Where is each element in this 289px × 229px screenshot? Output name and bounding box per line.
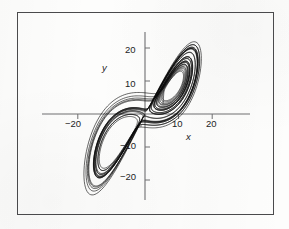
x-tick-label-10: 10 bbox=[172, 118, 182, 129]
y-axis-title: y bbox=[102, 62, 107, 73]
y-tick-label-10: 10 bbox=[125, 78, 135, 89]
y-tick-label-neg10: −10 bbox=[120, 140, 136, 151]
figure-border bbox=[17, 12, 274, 215]
y-tick-label-20: 20 bbox=[125, 44, 135, 55]
x-tick-label-20: 20 bbox=[206, 118, 216, 129]
x-axis-title: x bbox=[186, 131, 191, 142]
y-tick-label-neg20: −20 bbox=[120, 171, 136, 182]
figure-root: 20 10 −10 −20 −20 10 20 y x bbox=[0, 0, 289, 229]
x-tick-label-neg20: −20 bbox=[65, 118, 81, 129]
